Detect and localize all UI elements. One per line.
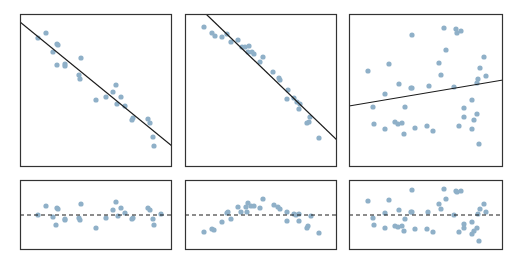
data-point (77, 76, 82, 81)
data-point (110, 207, 115, 212)
data-point (483, 209, 488, 214)
panel-frame (21, 15, 172, 167)
data-point (251, 203, 256, 208)
data-point (238, 209, 243, 214)
data-point (225, 209, 230, 214)
data-point (219, 34, 224, 39)
data-point (471, 117, 476, 122)
data-point (412, 125, 417, 130)
scatter-panel-3 (349, 15, 503, 167)
data-point (456, 123, 461, 128)
scatter-panel-1 (20, 15, 172, 167)
data-point (62, 63, 67, 68)
data-point (409, 209, 414, 214)
data-point (409, 85, 414, 90)
data-point (260, 196, 265, 201)
data-point (110, 89, 115, 94)
data-point (370, 104, 375, 109)
fit-line (206, 14, 337, 140)
data-point (469, 97, 474, 102)
data-point (158, 211, 163, 216)
data-point (409, 32, 414, 37)
data-point (401, 228, 406, 233)
data-point (430, 128, 435, 133)
data-point (477, 65, 482, 70)
data-point (55, 206, 60, 211)
data-point (412, 226, 417, 231)
data-point (402, 104, 407, 109)
data-point (43, 203, 48, 208)
data-point (284, 209, 289, 214)
data-point (305, 223, 310, 228)
data-point (456, 229, 461, 234)
data-point (151, 222, 156, 227)
data-point (458, 28, 463, 33)
data-point (211, 227, 216, 232)
data-point (296, 218, 301, 223)
data-point (235, 37, 240, 42)
data-point (284, 96, 289, 101)
data-point (476, 141, 481, 146)
data-point (443, 196, 448, 201)
data-point (130, 215, 135, 220)
data-point (443, 47, 448, 52)
data-point (461, 105, 466, 110)
data-point (469, 231, 474, 236)
data-point (150, 216, 155, 221)
residual-panel-3 (349, 181, 503, 250)
data-point (151, 143, 156, 148)
data-point (424, 226, 429, 231)
data-point (284, 218, 289, 223)
data-point (424, 123, 429, 128)
data-point (386, 61, 391, 66)
data-point (474, 111, 479, 116)
data-point (54, 62, 59, 67)
data-point (53, 222, 58, 227)
data-point (93, 225, 98, 230)
data-point (401, 131, 406, 136)
data-point (78, 55, 83, 60)
data-point (399, 223, 404, 228)
data-point (306, 119, 311, 124)
data-point (257, 205, 262, 210)
data-point (371, 121, 376, 126)
data-point (316, 135, 321, 140)
data-point (469, 219, 474, 224)
data-point (270, 69, 275, 74)
data-point (62, 217, 67, 222)
data-point (477, 206, 482, 211)
data-point (438, 206, 443, 211)
data-point (436, 201, 441, 206)
fit-line (20, 22, 172, 146)
data-point (77, 217, 82, 222)
data-point (219, 219, 224, 224)
data-point (246, 43, 251, 48)
data-point (475, 211, 480, 216)
residual-panel-1 (20, 181, 172, 250)
data-point (430, 229, 435, 234)
data-point (386, 197, 391, 202)
data-point (399, 120, 404, 125)
data-point (103, 215, 108, 220)
fit-line (349, 80, 503, 106)
data-point (235, 204, 240, 209)
residual-panel-2 (185, 181, 337, 250)
scatter-residual-grid (0, 0, 521, 264)
data-point (461, 225, 466, 230)
data-point (458, 188, 463, 193)
data-point (382, 225, 387, 230)
data-point (409, 187, 414, 192)
data-point (296, 106, 301, 111)
data-point (113, 199, 118, 204)
data-point (441, 186, 446, 191)
data-point (425, 209, 430, 214)
data-point (103, 94, 108, 99)
data-point (469, 126, 474, 131)
data-point (244, 209, 249, 214)
data-point (201, 229, 206, 234)
data-point (147, 207, 152, 212)
data-point (147, 120, 152, 125)
chart-canvas (0, 0, 521, 264)
data-point (228, 216, 233, 221)
data-point (296, 211, 301, 216)
